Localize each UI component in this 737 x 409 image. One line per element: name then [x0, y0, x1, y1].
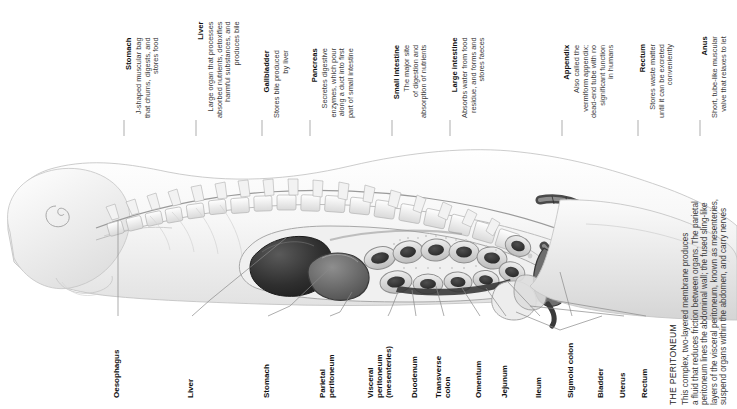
label-sigmoid-colon: Sigmoid colon [566, 343, 575, 398]
figure-page: Stomach J-shaped muscular bag that churn… [0, 0, 737, 409]
label-parietal-peritoneum: Parietal peritoneum [318, 354, 336, 398]
callout-title: Large intestine [450, 37, 459, 92]
callout-title: Stomach [124, 37, 133, 69]
peritoneum-note-title: THE PERITONEUM [668, 199, 678, 405]
callout-pancreas: Pancreas Secretes digestive enzymes, whi… [310, 48, 355, 118]
callout-title: Small intestine [392, 45, 401, 99]
callout-stomach: Stomach J-shaped muscular bag that churn… [124, 37, 161, 118]
callout-title: Rectum [638, 44, 647, 72]
callout-large-intestine: Large intestine Absorbs water from food … [450, 37, 487, 118]
callout-title: Liver [196, 21, 205, 39]
label-ileum: Ileum [534, 377, 543, 398]
callout-body: The major site of digestion and absorpti… [403, 45, 429, 118]
callout-title: Anus [700, 36, 709, 55]
callout-body: Also called the vermiform appendix; dead… [573, 45, 616, 118]
callout-body: Short, tube-like muscular valve that rel… [711, 36, 728, 118]
callout-appendix: Appendix Also called the vermiform appen… [562, 45, 616, 118]
callout-body: Stores bile produced by liver [273, 50, 290, 118]
callout-gallbladder: Gallbladder Stores bile produced by live… [262, 50, 290, 118]
label-duodenum: Duodenum [410, 356, 419, 398]
callout-body: Absorbs water from food residue, and for… [461, 37, 487, 118]
callout-title: Appendix [562, 45, 571, 80]
top-leader-lines [124, 120, 700, 136]
callout-body: J-shaped muscular bag that churns, diges… [135, 37, 161, 118]
label-visceral-peritoneum: Visceral peritoneum (mesenteries) [366, 346, 394, 398]
peritoneum-note: THE PERITONEUM This complex, two-layered… [668, 199, 729, 405]
callout-body: Stores waste matter until it can be excr… [649, 44, 675, 118]
label-rectum: Rectum [640, 369, 649, 398]
peritoneum-note-body: This complex, two-layered membrane produ… [681, 199, 729, 405]
label-transverse-colon: Transverse colon [434, 356, 452, 398]
callout-title: Pancreas [310, 48, 319, 82]
callout-small-intestine: Small intestine The major site of digest… [392, 45, 429, 118]
label-uterus: Uterus [618, 373, 627, 398]
callout-liver: Liver Large organ that processes absorbe… [196, 21, 241, 118]
callout-body: Secretes digestive enzymes, which pour a… [321, 48, 355, 118]
label-oesophagus: Oesophagus [112, 350, 121, 398]
label-bladder: Bladder [596, 368, 605, 398]
callout-body: Large organ that processes absorbed nutr… [207, 21, 241, 118]
label-stomach: Stomach [262, 364, 271, 398]
callout-rectum: Rectum Stores waste matter until it can … [638, 44, 675, 118]
callout-anus: Anus Short, tube-like muscular valve tha… [700, 36, 728, 118]
label-liver: Liver [186, 379, 195, 398]
label-jejunum: Jejunum [500, 365, 509, 398]
callout-title: Gallbladder [262, 50, 271, 92]
label-omentum: Omentum [474, 361, 483, 398]
